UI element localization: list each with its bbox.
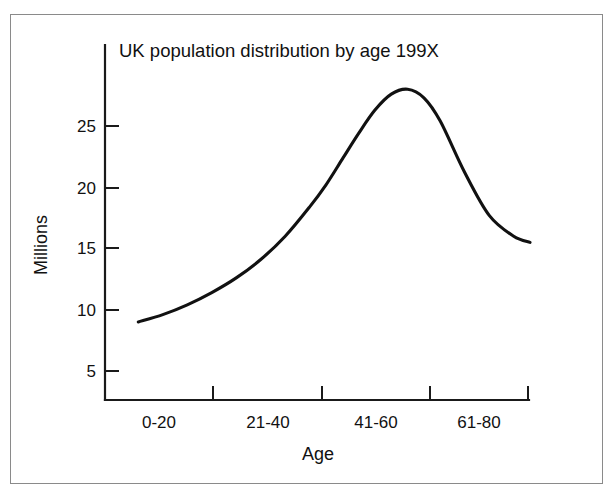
x-tick-label-21-40: 21-40 — [246, 413, 289, 432]
y-tick-label-20: 20 — [77, 179, 96, 198]
population-curve — [138, 89, 530, 322]
chart-canvas: 25 20 15 10 5 0-20 21-40 41-60 61-80 UK … — [0, 0, 613, 496]
x-tick-label-41-60: 41-60 — [354, 413, 397, 432]
y-axis-title: Millions — [31, 215, 51, 275]
y-tick-label-25: 25 — [77, 117, 96, 136]
x-axis-title: Age — [302, 444, 334, 464]
x-tick-label-61-80: 61-80 — [457, 413, 500, 432]
chart-figure: 25 20 15 10 5 0-20 21-40 41-60 61-80 UK … — [0, 0, 613, 496]
y-tick-label-15: 15 — [77, 239, 96, 258]
y-tick-label-5: 5 — [87, 362, 96, 381]
chart-title: UK population distribution by age 199X — [119, 40, 439, 61]
x-tick-label-0-20: 0-20 — [142, 413, 176, 432]
y-tick-label-10: 10 — [77, 301, 96, 320]
